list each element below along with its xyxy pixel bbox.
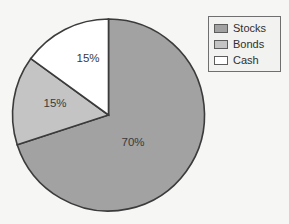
pie-slice-label-stocks: 70% [121,136,144,148]
legend-item-cash[interactable]: Cash [214,53,275,67]
legend-item-stocks[interactable]: Stocks [214,21,275,35]
legend-label-cash: Cash [233,54,259,66]
legend-item-bonds[interactable]: Bonds [214,37,275,51]
pie-slice-label-cash: 15% [76,52,99,64]
legend-swatch-bonds [214,40,228,49]
pie-chart-figure: 70% 15% 15% Stocks Bonds Cash [0,0,289,224]
legend-label-stocks: Stocks [233,22,266,34]
pie-slice-label-bonds: 15% [43,97,66,109]
legend-label-bonds: Bonds [233,38,264,50]
legend-swatch-cash [214,56,228,65]
legend-swatch-stocks [214,24,228,33]
chart-legend: Stocks Bonds Cash [208,16,281,72]
